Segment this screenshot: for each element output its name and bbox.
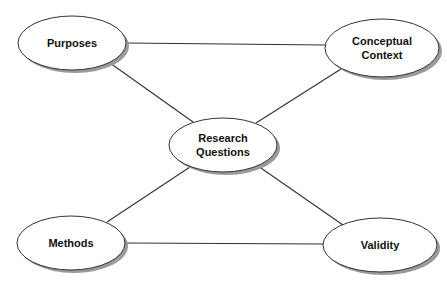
node-label: Methods xyxy=(48,237,93,249)
node-conceptual-context: ConceptualContext xyxy=(325,19,442,80)
nodes-layer: PurposesConceptualContextResearchQuestio… xyxy=(17,16,442,275)
node-ellipse xyxy=(169,118,277,172)
edge-conceptual-context-to-research-questions xyxy=(256,69,341,123)
node-label: Validity xyxy=(361,239,400,251)
edge-methods-to-validity xyxy=(125,243,323,244)
edge-purposes-to-research-questions xyxy=(110,63,193,122)
node-label: Research xyxy=(198,132,248,144)
edge-validity-to-research-questions xyxy=(258,166,343,225)
node-validity: Validity xyxy=(323,218,440,275)
node-label: Questions xyxy=(196,146,250,158)
node-label: Purposes xyxy=(47,37,97,49)
node-label: Conceptual xyxy=(352,35,412,47)
node-label: Context xyxy=(362,49,403,61)
concept-diagram: PurposesConceptualContextResearchQuestio… xyxy=(0,0,447,286)
node-research-questions: ResearchQuestions xyxy=(169,118,280,175)
node-ellipse xyxy=(325,19,439,77)
node-purposes: Purposes xyxy=(18,16,129,73)
edge-purposes-to-conceptual-context xyxy=(126,43,325,45)
edge-methods-to-research-questions xyxy=(107,167,190,222)
node-methods: Methods xyxy=(17,216,128,273)
